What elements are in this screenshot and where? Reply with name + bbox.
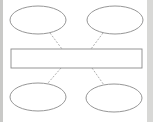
node-bottom-right[interactable] [86,84,142,112]
central-box[interactable] [11,49,142,68]
connector-bottom-right [92,68,104,85]
concept-map [0,0,153,122]
node-top-left[interactable] [10,6,66,34]
node-top-right[interactable] [87,6,143,34]
node-bottom-left[interactable] [10,83,66,111]
connector-top-left [50,33,62,49]
connector-top-right [91,33,103,49]
connector-bottom-left [48,68,61,83]
